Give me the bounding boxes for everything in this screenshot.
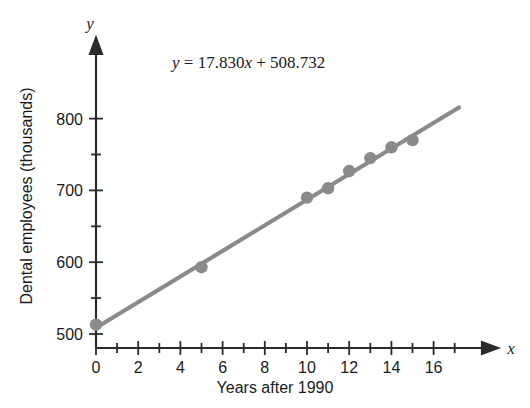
x-axis-tick-label: 0	[92, 359, 101, 376]
x-axis-tick-label: 8	[260, 359, 269, 376]
x-axis-tick-label: 12	[340, 359, 358, 376]
x-axis-tick-label: 16	[425, 359, 443, 376]
equation-equals-symbol: =	[184, 53, 194, 72]
x-axis-tick-label: 4	[176, 359, 185, 376]
equation-plus-symbol: +	[256, 53, 266, 72]
x-axis-tick-label: 10	[298, 359, 316, 376]
x-axis-tick-label: 6	[218, 359, 227, 376]
regression-line	[96, 108, 459, 328]
data-point	[385, 141, 397, 153]
data-point	[364, 152, 376, 164]
scatter-plot-with-regression-line: y x 500600700800 0246810121416 y = 17.83…	[0, 0, 530, 408]
equation-intercept-value: 508.732	[270, 53, 325, 72]
y-axis-tick-label: 800	[56, 111, 83, 128]
y-axis-tick-label: 600	[56, 254, 83, 271]
x-axis-title: Years after 1990	[217, 379, 334, 396]
x-axis-tick-label: 14	[383, 359, 401, 376]
y-axis-variable-label: y	[84, 14, 94, 33]
y-axis-tick-label: 500	[56, 326, 83, 343]
x-axis-variable-label: x	[506, 339, 515, 358]
y-axis-arrowhead	[90, 38, 102, 54]
data-point	[195, 261, 207, 273]
x-axis-tick-label: 2	[134, 359, 143, 376]
x-axis-arrowhead	[482, 342, 498, 354]
y-axis-tick-labels: 500600700800	[56, 111, 83, 343]
data-point	[343, 165, 355, 177]
chart-figure: y x 500600700800 0246810121416 y = 17.83…	[0, 0, 530, 408]
data-point	[301, 191, 313, 203]
data-point	[322, 182, 334, 194]
data-point	[90, 318, 102, 330]
x-axis-tick-labels: 0246810121416	[92, 359, 443, 376]
equation-y-symbol: y	[170, 53, 180, 72]
regression-equation-annotation: y = 17.830x + 508.732	[170, 53, 325, 72]
data-point	[406, 134, 418, 146]
y-axis-title: Dental employees (thousands)	[18, 87, 35, 304]
equation-slope-value: 17.830	[198, 53, 245, 72]
y-axis-tick-label: 700	[56, 182, 83, 199]
